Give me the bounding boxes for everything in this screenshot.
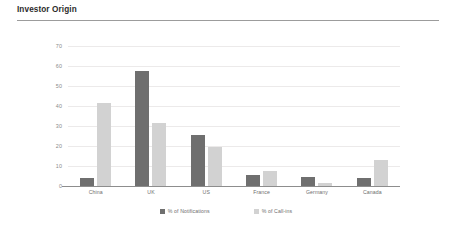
bar[interactable]: [357, 178, 371, 186]
x-axis-tick-labels: ChinaUKUSFranceGermanyCanada: [68, 189, 400, 201]
bar[interactable]: [80, 178, 94, 186]
bar-group: [345, 46, 400, 186]
plot-area: [68, 46, 400, 186]
y-axis-tick-label: 20: [32, 143, 62, 149]
bar[interactable]: [135, 71, 149, 186]
y-axis-tick-labels: 010203040506070: [30, 46, 62, 186]
bar[interactable]: [263, 171, 277, 186]
legend-label: % of Notifications: [168, 208, 210, 214]
x-axis-tick-label: US: [179, 189, 234, 201]
legend-swatch-icon: [254, 209, 259, 214]
y-axis-tick-label: 40: [32, 103, 62, 109]
x-axis-tick-label: China: [68, 189, 123, 201]
legend-item[interactable]: % of Call-ins: [254, 208, 292, 214]
bar-chart: 010203040506070 ChinaUKUSFranceGermanyCa…: [0, 26, 452, 231]
legend-label: % of Call-ins: [262, 208, 292, 214]
x-axis-tick-label: France: [234, 189, 289, 201]
x-axis-line: [62, 186, 400, 187]
bar-group: [289, 46, 344, 186]
x-axis-tick-label: Germany: [289, 189, 344, 201]
bar[interactable]: [97, 103, 111, 186]
bar-group: [179, 46, 234, 186]
bar-group: [123, 46, 178, 186]
y-axis-tick-label: 70: [32, 43, 62, 49]
chart-legend: % of Notifications% of Call-ins: [0, 208, 452, 214]
chart-page: Investor Origin 010203040506070 ChinaUKU…: [0, 0, 452, 231]
header-divider: [17, 20, 439, 21]
x-axis-tick-label: Canada: [345, 189, 400, 201]
bar-groups: [68, 46, 400, 186]
panel-header: Investor Origin: [0, 0, 452, 26]
page-title: Investor Origin: [17, 5, 77, 14]
x-axis-tick-label: UK: [123, 189, 178, 201]
bar[interactable]: [374, 160, 388, 186]
legend-swatch-icon: [160, 209, 165, 214]
bar[interactable]: [191, 135, 205, 186]
y-axis-tick-label: 60: [32, 63, 62, 69]
y-axis-tick-label: 50: [32, 83, 62, 89]
bar[interactable]: [246, 175, 260, 186]
y-axis-tick-label: 10: [32, 163, 62, 169]
y-axis-tick-label: 30: [32, 123, 62, 129]
bar[interactable]: [152, 123, 166, 186]
y-axis-tick-label: 0: [32, 183, 62, 189]
bar-group: [234, 46, 289, 186]
legend-item[interactable]: % of Notifications: [160, 208, 210, 214]
bar[interactable]: [301, 177, 315, 186]
bar[interactable]: [208, 147, 222, 186]
bar-group: [68, 46, 123, 186]
